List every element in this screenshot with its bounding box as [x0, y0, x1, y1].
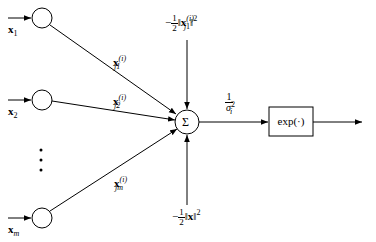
activation-label: exp(·)	[269, 115, 313, 127]
input-nodes	[32, 8, 52, 228]
input-node-2	[32, 90, 52, 110]
sigma-icon: Σ	[182, 116, 189, 128]
rbf-network-diagram: x1 x2 xm x(i)j1 x(i)j2 x(i)jm −12‖x(i)j1…	[0, 0, 376, 242]
ellipsis-icon	[40, 149, 43, 172]
input-label-1: x1	[8, 24, 18, 35]
bottom-bias-label: −12‖x‖2	[172, 208, 200, 227]
input-arrows	[8, 18, 31, 218]
top-bias-label: −12‖x(i)j1‖2	[165, 14, 197, 33]
input-node-m	[32, 208, 52, 228]
weight-label-j2: x(i)j2	[113, 96, 120, 107]
scale-label: 1σ2i	[225, 92, 233, 113]
input-label-m: xm	[8, 224, 19, 235]
input-node-1	[32, 8, 52, 28]
weight-label-jm: x(i)jm	[114, 178, 123, 189]
weight-label-j1: x(i)j1	[113, 57, 120, 68]
input-label-2: x2	[8, 106, 18, 117]
